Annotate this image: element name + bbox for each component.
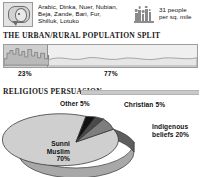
rural-hills-shape [49, 58, 197, 66]
bar-silhouettes [4, 45, 197, 67]
speech-face-icon [3, 2, 33, 27]
urban-percent-label: 23% [18, 70, 32, 77]
label-sunni-muslim: Sunni Muslim 70% [22, 140, 70, 163]
face-profile-shape [15, 8, 27, 22]
heading-divider [81, 90, 199, 95]
label-indigenous-beliefs: Indigenous beliefs 20% [152, 123, 189, 138]
rural-percent-label: 77% [104, 70, 118, 77]
figures-group [133, 3, 155, 25]
religion-pie-chart: Other 5% Christian 5% Indigenous beliefs… [0, 96, 202, 177]
infographic-panel: Arabic, Dinka, Nuer, Nubian, Beja, Zande… [0, 0, 202, 177]
facts-row: Arabic, Dinka, Nuer, Nubian, Beja, Zande… [0, 0, 202, 30]
urban-rural-bar-chart [3, 44, 198, 68]
urban-rural-heading: THE URBAN/RURAL POPULATION SPLIT [3, 31, 160, 40]
population-figures-icon [133, 3, 155, 25]
languages-fact: Arabic, Dinka, Nuer, Nubian, Beja, Zande… [3, 2, 117, 27]
density-fact: 31 people per sq. mile [133, 3, 192, 25]
figures-baseline [134, 21, 154, 23]
label-christian: Christian 5% [124, 101, 165, 109]
city-skyline-shape [4, 49, 49, 65]
languages-text: Arabic, Dinka, Nuer, Nubian, Beja, Zande… [38, 2, 117, 25]
density-text: 31 people per sq. mile [159, 3, 192, 20]
label-other: Other 5% [60, 100, 90, 108]
